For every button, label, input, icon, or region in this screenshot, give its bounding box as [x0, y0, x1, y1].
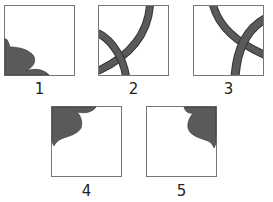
panel-4-figure	[51, 106, 122, 177]
panel-1-figure	[4, 5, 75, 76]
option-label-3: 3	[193, 81, 264, 97]
option-label-4: 4	[51, 183, 122, 199]
panel-5-figure	[146, 106, 217, 177]
option-label-5: 5	[146, 183, 217, 199]
option-panel-2[interactable]	[98, 5, 169, 76]
panel-2-figure	[98, 5, 169, 76]
option-panel-4[interactable]	[51, 106, 122, 177]
option-label-1: 1	[4, 81, 75, 97]
option-panel-5[interactable]	[146, 106, 217, 177]
panel-3-figure	[193, 5, 264, 76]
option-panel-3[interactable]	[193, 5, 264, 76]
option-label-2: 2	[98, 81, 169, 97]
option-panel-1[interactable]	[4, 5, 75, 76]
